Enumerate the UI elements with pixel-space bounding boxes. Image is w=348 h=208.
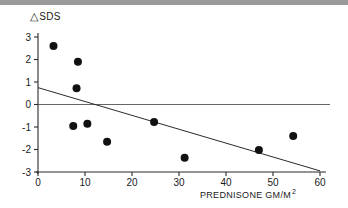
y-tick-label: 0 [25, 99, 31, 110]
y-tick-label: -3 [22, 167, 31, 178]
x-tick-label: 10 [79, 177, 91, 188]
data-point [73, 84, 81, 92]
data-point [181, 154, 189, 162]
x-tick-label: 40 [220, 177, 232, 188]
data-point [74, 58, 82, 66]
x-tick-label: 0 [35, 177, 41, 188]
scatter-plot-figure: 3210-1-2-30102030405060 △SDS PREDNISONE … [0, 0, 348, 208]
y-tick-label: 2 [25, 54, 31, 65]
data-point [69, 122, 77, 130]
data-point [150, 118, 158, 126]
regression-line [38, 88, 320, 171]
y-tick-label: 3 [25, 32, 31, 43]
y-axis-title-text: SDS [39, 11, 60, 22]
data-point [255, 146, 263, 154]
x-tick-label: 50 [267, 177, 279, 188]
y-tick-label: -2 [22, 144, 31, 155]
x-tick-label: 30 [173, 177, 185, 188]
chart-canvas: 3210-1-2-30102030405060 [0, 0, 348, 208]
y-axis-title: △SDS [30, 11, 61, 22]
plot-area: 3210-1-2-30102030405060 [0, 0, 348, 208]
data-point [50, 42, 58, 50]
x-tick-label: 20 [126, 177, 138, 188]
x-axis-title-text: PREDNISONE GM/M [200, 190, 291, 200]
delta-triangle-icon: △ [30, 11, 38, 22]
data-point [289, 132, 297, 140]
data-point [83, 120, 91, 128]
y-tick-label: -1 [22, 122, 31, 133]
x-axis-title: PREDNISONE GM/M2 [200, 188, 296, 200]
y-tick-label: 1 [25, 77, 31, 88]
data-point [103, 138, 111, 146]
x-tick-label: 60 [314, 177, 326, 188]
x-axis-title-superscript: 2 [292, 188, 296, 195]
